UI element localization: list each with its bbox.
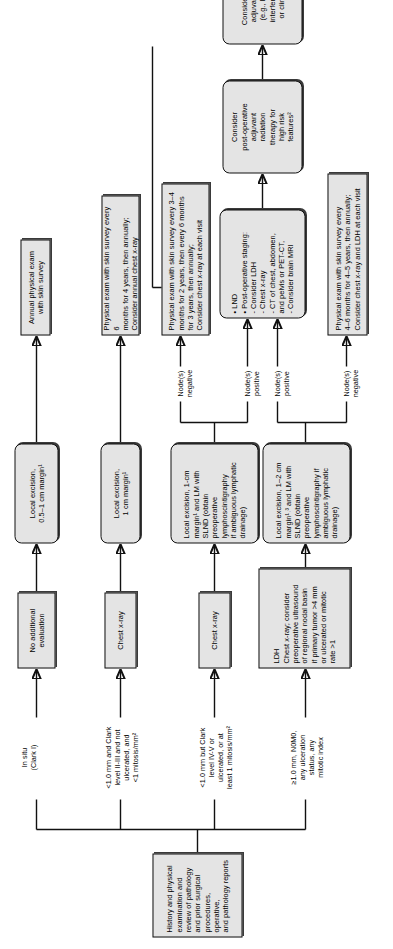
branch-label-thin-high-risk: <1.0 mm but Clark level IV-V or ulcerate… bbox=[188, 717, 233, 797]
start-node-label: History and physical examination and rev… bbox=[164, 858, 229, 932]
node-status-label-negative-2: Node(s) negative bbox=[332, 366, 359, 400]
workup-node-chest-xray-2[interactable]: Chest x-ray bbox=[198, 592, 230, 668]
followup-node-every-6-months[interactable]: Physical exam with skin survey every 6 m… bbox=[101, 195, 139, 335]
branch-label-thin-low-risk: <1.0 mm and Clark level II-III and not u… bbox=[94, 717, 139, 797]
rotated-diagram-wrapper: History and physical examination and rev… bbox=[0, 0, 393, 949]
node-status-label-positive-2: Node(s) positive bbox=[263, 366, 290, 400]
advanced-node-systemic-adjuvant-therapy[interactable]: Consider systemic adjuvant therapy (e.g.… bbox=[222, 0, 302, 44]
flowchart-canvas: History and physical examination and rev… bbox=[0, 0, 393, 949]
treatment-node-local-excision-1cm[interactable]: Local excision, 1 cm margin¹ bbox=[100, 443, 140, 543]
advanced-node-adjuvant-radiation[interactable]: Consider post-operative adjuvant radiati… bbox=[222, 80, 302, 173]
treatment-node-local-excision-slnd-1-2cm[interactable]: Local excision, 1–2 cm margin¹˒³ and LM … bbox=[262, 443, 350, 543]
branch-label-in-situ: In situ (Clark I) bbox=[10, 717, 37, 797]
followup-node-every-4-6-months[interactable]: Physical exam with skin survey every 4–6… bbox=[327, 173, 367, 335]
workup-node-chest-xray-1[interactable]: Chest x-ray bbox=[104, 592, 136, 668]
start-node-history-physical[interactable]: History and physical examination and rev… bbox=[152, 853, 242, 937]
treatment-node-local-excision-slnd-1cm[interactable]: Local excision, 1-cm margin¹ and LM with… bbox=[170, 443, 258, 543]
node-status-label-positive-1: Node(s) positive bbox=[233, 366, 260, 400]
branch-label-thick: ≥1.0 mm, N0M0, any ulceration status, an… bbox=[279, 717, 324, 797]
followup-node-every-3-4-months[interactable]: Physical exam with skin survey every 3–4… bbox=[161, 183, 209, 335]
treatment-node-local-excision-0.5-1cm[interactable]: Local excision, 0.5–1 cm margin¹ bbox=[14, 443, 58, 543]
workup-node-ldh-chest-xray-ultrasound[interactable]: LDH Chest x-ray; consider preoperative u… bbox=[258, 568, 350, 668]
node-status-label-negative-1: Node(s) negative bbox=[166, 366, 193, 400]
workup-node-no-additional-evaluation[interactable]: No additional evaluation bbox=[17, 592, 55, 668]
followup-node-annual-exam[interactable]: Annual physical exam with skin survey bbox=[20, 239, 50, 335]
advanced-node-lnd-postoperative-staging[interactable]: • LND • Post-operative staging: - Consid… bbox=[219, 209, 305, 318]
